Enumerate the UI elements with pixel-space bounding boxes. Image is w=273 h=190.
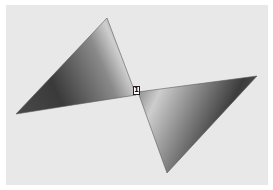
image-frame: 1 [0, 0, 273, 190]
render-scene [0, 0, 273, 190]
right-triangle-facet [138, 76, 257, 173]
vertex-label: 1 [133, 86, 140, 95]
left-triangle-facet [16, 18, 136, 114]
